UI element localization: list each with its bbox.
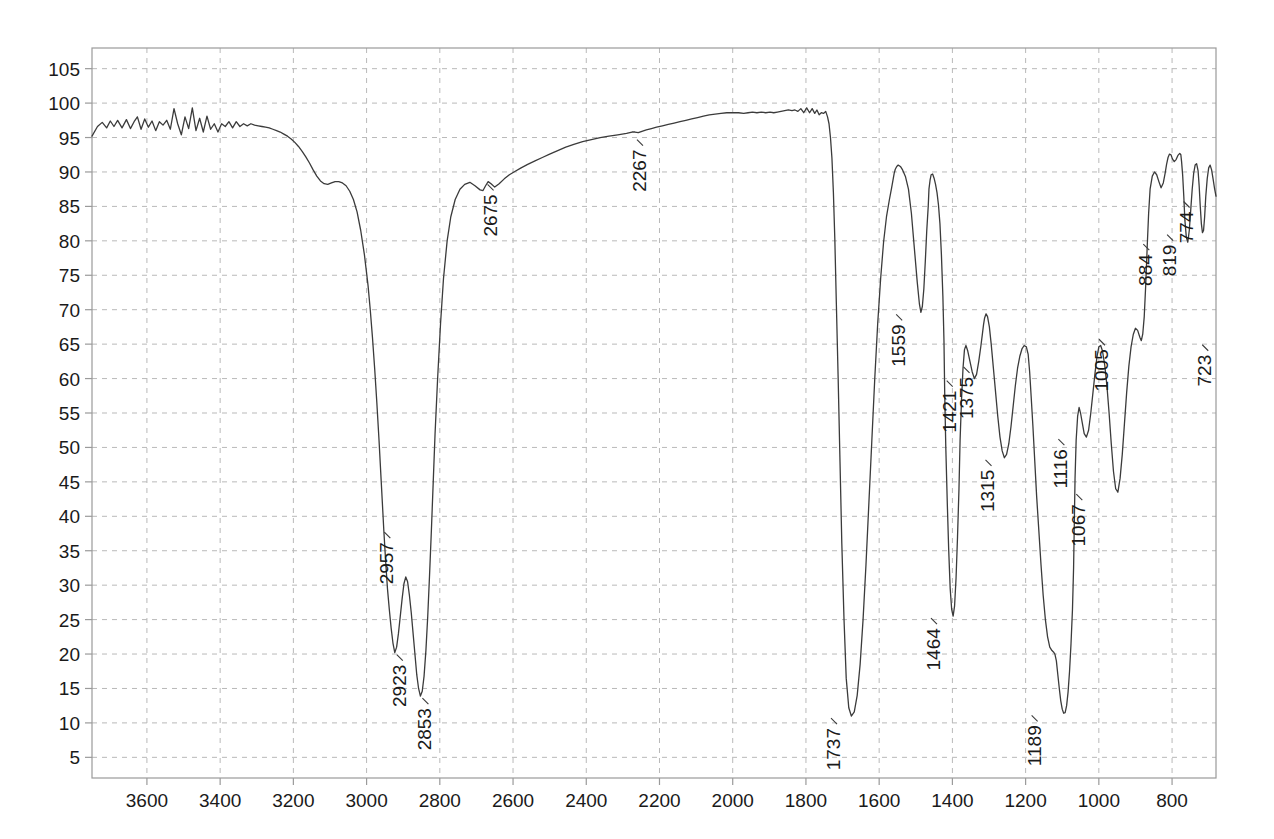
- y-tick-label: 60: [59, 369, 80, 390]
- peak-label: 1375: [956, 377, 977, 419]
- y-tick-label: 50: [59, 437, 80, 458]
- peak-label: 1005: [1091, 349, 1112, 391]
- x-tick-label: 800: [1156, 790, 1188, 811]
- peak-label: 774: [1176, 211, 1197, 243]
- y-tick-label: 30: [59, 575, 80, 596]
- x-tick-label: 1400: [931, 790, 973, 811]
- y-tick-label: 20: [59, 644, 80, 665]
- peak-label: 1559: [888, 324, 909, 366]
- y-tick-label: 75: [59, 265, 80, 286]
- y-tick-label: 70: [59, 300, 80, 321]
- peak-label: 1737: [823, 728, 844, 770]
- y-tick-label: 40: [59, 506, 80, 527]
- y-tick-label: 65: [59, 334, 80, 355]
- peak-label: 2923: [389, 665, 410, 707]
- peak-label: 1116: [1050, 449, 1071, 488]
- x-tick-label: 1600: [858, 790, 900, 811]
- peak-label: 2853: [414, 708, 435, 750]
- peak-label: 2267: [629, 150, 650, 192]
- x-tick-label: 3600: [126, 790, 168, 811]
- x-tick-label: 3200: [272, 790, 314, 811]
- x-tick-label: 1000: [1078, 790, 1120, 811]
- y-tick-label: 25: [59, 610, 80, 631]
- peak-label: 2675: [480, 194, 501, 236]
- y-tick-label: 85: [59, 196, 80, 217]
- peak-label: 884: [1135, 254, 1156, 286]
- x-tick-label: 2600: [492, 790, 534, 811]
- y-tick-label: 80: [59, 231, 80, 252]
- peak-label: 1464: [923, 628, 944, 671]
- y-tick-label: 95: [59, 128, 80, 149]
- x-tick-label: 3000: [345, 790, 387, 811]
- y-tick-label: 5: [69, 747, 80, 768]
- x-tick-label: 2200: [638, 790, 680, 811]
- figure-background: [0, 0, 1274, 839]
- y-tick-label: 90: [59, 162, 80, 183]
- x-tick-label: 2000: [712, 790, 754, 811]
- ir-spectrum-figure: 5101520253035404550556065707580859095100…: [0, 0, 1274, 839]
- peak-label: 1067: [1068, 504, 1089, 546]
- peak-label: 2957: [376, 542, 397, 584]
- y-tick-label: 105: [48, 59, 80, 80]
- y-tick-label: 45: [59, 472, 80, 493]
- y-tick-label: 10: [59, 713, 80, 734]
- x-tick-label: 2400: [565, 790, 607, 811]
- x-tick-label: 1800: [785, 790, 827, 811]
- spectrum-plot: 5101520253035404550556065707580859095100…: [0, 0, 1274, 839]
- y-tick-label: 55: [59, 403, 80, 424]
- peak-label: 723: [1194, 355, 1215, 387]
- x-tick-label: 2800: [419, 790, 461, 811]
- y-tick-label: 100: [48, 93, 80, 114]
- peak-label: 1189: [1024, 725, 1045, 766]
- peak-label: 819: [1159, 245, 1180, 277]
- x-tick-label: 3400: [199, 790, 241, 811]
- y-tick-label: 15: [59, 678, 80, 699]
- x-tick-label: 1200: [1004, 790, 1046, 811]
- peak-label: 1315: [978, 470, 999, 512]
- y-tick-label: 35: [59, 541, 80, 562]
